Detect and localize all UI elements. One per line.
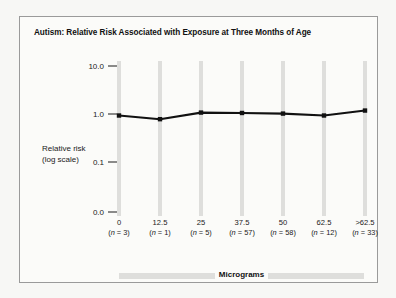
x-axis-tick: 12.5(n = 1): [149, 218, 171, 238]
data-point-marker: [158, 117, 162, 121]
x-axis-tick: 0(n = 3): [108, 218, 130, 238]
data-point-marker: [363, 108, 367, 112]
y-axis-label-line-1: Relative risk: [42, 144, 86, 155]
x-axis-sample-count: (n = 12): [311, 228, 337, 238]
x-axis-label: Micrograms: [119, 270, 364, 279]
x-axis-sample-count: (n = 5): [190, 228, 212, 238]
x-axis-sample-count: (n = 33): [352, 228, 378, 238]
x-axis-sample-count: (n = 3): [108, 228, 130, 238]
series-line-chart: [100, 61, 362, 216]
x-axis-tick-label: 12.5: [149, 218, 171, 228]
y-axis-label-line-2: (log scale): [42, 155, 86, 166]
x-axis-tick: 50(n = 58): [270, 218, 296, 238]
data-point-marker: [240, 111, 244, 115]
data-point-marker: [322, 113, 326, 117]
grid-band: [363, 61, 367, 216]
plot-area: [100, 61, 362, 216]
x-axis-tick-label: 25: [190, 218, 212, 228]
x-axis-tick: 37.5(n = 57): [229, 218, 255, 238]
data-point-marker: [281, 111, 285, 115]
x-axis-tick: 25(n = 5): [190, 218, 212, 238]
data-point-marker: [199, 110, 203, 114]
x-axis-label-text: Micrograms: [215, 270, 268, 279]
x-axis-tick: >62.5(n = 33): [352, 218, 378, 238]
x-axis-sample-count: (n = 58): [270, 228, 296, 238]
chart-figure: Autism: Relative Risk Associated with Ex…: [19, 16, 378, 283]
x-axis-sample-count: (n = 57): [229, 228, 255, 238]
x-axis-sample-count: (n = 1): [149, 228, 171, 238]
x-axis-tick-label: 37.5: [229, 218, 255, 228]
y-axis-label: Relative risk (log scale): [42, 144, 86, 165]
x-axis-tick-label: >62.5: [352, 218, 378, 228]
x-axis-tick-label: 62.5: [311, 218, 337, 228]
data-point-marker: [117, 113, 121, 117]
x-axis-tick-label: 50: [270, 218, 296, 228]
x-axis-tick-label: 0: [108, 218, 130, 228]
x-axis-tick: 62.5(n = 12): [311, 218, 337, 238]
